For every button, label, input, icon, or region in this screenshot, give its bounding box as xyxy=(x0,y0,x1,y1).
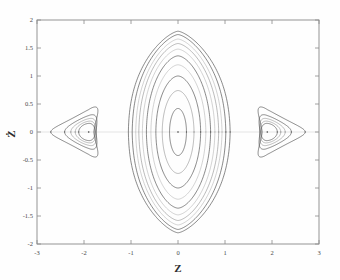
x-axis-title: Z xyxy=(174,262,181,274)
x-tick-label: -3 xyxy=(34,249,39,256)
y-tick-label: -1 xyxy=(28,184,33,191)
x-tick-label: 0 xyxy=(176,249,179,256)
x-tick-label: -1 xyxy=(128,249,133,256)
y-tick-label: -2 xyxy=(28,240,33,247)
y-axis-title: Ż xyxy=(5,130,17,137)
y-tick-label: 1.5 xyxy=(25,44,33,51)
y-tick-label: 0 xyxy=(30,128,33,135)
x-tick-label: 2 xyxy=(270,249,273,256)
plot-canvas: -3-2-10123 21.510.50-0.5-1-1.5-2 Z Ż xyxy=(0,0,340,280)
y-tick-label: 1 xyxy=(30,72,33,79)
x-tick-label: -2 xyxy=(81,249,86,256)
y-tick-label: -0.5 xyxy=(23,156,33,163)
center-elliptic-point xyxy=(177,131,179,133)
right-island-elliptic-point xyxy=(267,131,269,133)
x-tick-label: 1 xyxy=(223,249,226,256)
y-tick-label: -1.5 xyxy=(23,212,33,219)
left-island-elliptic-point xyxy=(88,131,90,133)
y-tick-label: 2 xyxy=(30,16,33,23)
phase-portrait-figure: -3-2-10123 21.510.50-0.5-1-1.5-2 Z Ż xyxy=(0,0,340,280)
y-tick-label: 0.5 xyxy=(25,100,33,107)
x-tick-label: 3 xyxy=(317,249,320,256)
